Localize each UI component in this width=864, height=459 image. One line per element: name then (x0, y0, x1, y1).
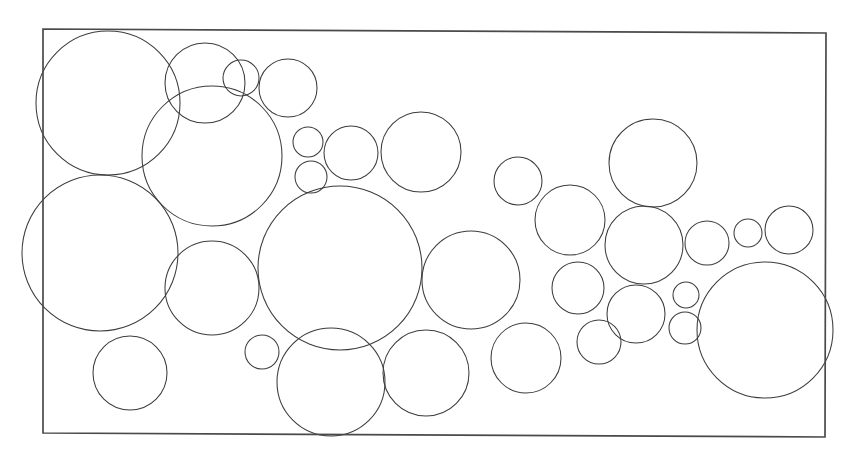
circle-packing-figure (0, 0, 864, 459)
figure-root (0, 0, 864, 459)
